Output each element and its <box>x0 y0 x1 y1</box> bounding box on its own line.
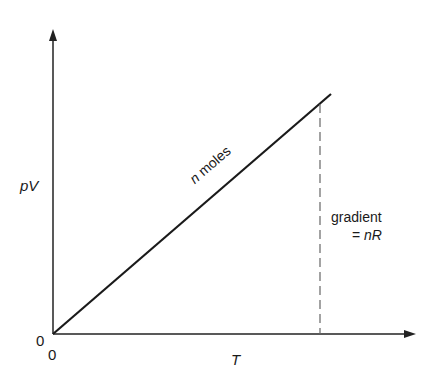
x-axis-label: T <box>231 352 240 367</box>
gradient-eq-sign: = <box>352 227 364 243</box>
y-axis-arrow-icon <box>49 29 57 41</box>
pv-t-diagram <box>0 0 435 380</box>
y-origin-label: 0 <box>36 333 44 348</box>
gradient-equation: = nR <box>352 228 382 242</box>
gradient-var: nR <box>364 227 382 243</box>
x-origin-label: 0 <box>48 347 56 362</box>
y-axis-label: pV <box>20 178 38 193</box>
x-axis-arrow-icon <box>404 330 416 338</box>
n-moles-line <box>53 94 331 334</box>
gradient-label: gradient <box>331 210 382 224</box>
